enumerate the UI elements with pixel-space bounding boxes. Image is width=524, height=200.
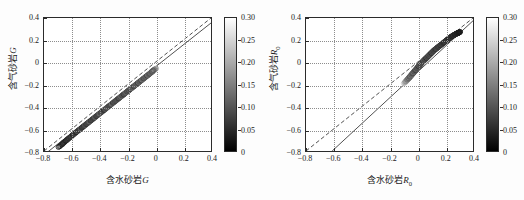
- x-tickmark: [100, 148, 101, 151]
- y-tickmark: [306, 131, 309, 132]
- x-tickmark: [419, 148, 420, 151]
- y-tickmark: [306, 86, 309, 87]
- gridline-horizontal: [44, 86, 211, 87]
- gridline-horizontal: [306, 131, 473, 132]
- x-tick-label: 0.2: [179, 154, 189, 163]
- gridline-horizontal: [44, 63, 211, 64]
- x-tickmark: [185, 148, 186, 151]
- colorbar-tick-label: 0.10: [241, 103, 255, 112]
- x-tickmark: [129, 148, 130, 151]
- y-tick-label: 0: [35, 58, 39, 67]
- colorbar-tick-label: 0.25: [503, 35, 517, 44]
- panel-left-G: −0.8−0.6−0.4−0.200.20.4 −0.8−0.6−0.4−0.2…: [0, 0, 262, 200]
- colorbar-tickmark: [238, 130, 241, 131]
- colorbar-tickmark: [238, 40, 241, 41]
- x-tickmark: [157, 148, 158, 151]
- colorbar-tickmark: [500, 85, 503, 86]
- x-axis-label-right-text: 含水砂岩: [367, 175, 403, 185]
- y-tick-label: −0.2: [286, 80, 301, 89]
- colorbar-tickmark: [238, 62, 241, 63]
- colorbar-tick-label: 0.20: [241, 58, 255, 67]
- colorbar-left: [224, 17, 237, 152]
- x-axis-label-left-text: 含水砂岩: [106, 175, 142, 185]
- x-tick-label: 0.4: [469, 154, 479, 163]
- y-tick-label: 0.2: [291, 35, 301, 44]
- x-tickmark: [391, 148, 392, 151]
- x-tickmark: [334, 148, 335, 151]
- y-axis-label-right-symbol: R: [269, 50, 279, 56]
- gridline-horizontal: [306, 63, 473, 64]
- x-tick-label: −0.6: [64, 154, 79, 163]
- y-tickmark: [306, 41, 309, 42]
- colorbar-tick-label: 0.30: [503, 13, 517, 22]
- gridline-horizontal: [306, 86, 473, 87]
- colorbar-tick-label: 0: [241, 148, 245, 157]
- y-axis-label-right: 含气砂岩R0: [267, 24, 281, 114]
- colorbar-tick-labels-right: 00.050.100.150.200.250.30: [500, 17, 524, 152]
- y-tick-label: −0.8: [24, 148, 39, 157]
- y-tickmark: [44, 108, 47, 109]
- gridline-horizontal: [44, 131, 211, 132]
- colorbar-tick-label: 0: [503, 148, 507, 157]
- x-tickmark: [306, 148, 307, 151]
- y-axis-label-left: 含气砂岩G: [6, 24, 19, 114]
- y-tickmark: [306, 18, 309, 19]
- colorbar-tickmark: [238, 107, 241, 108]
- colorbar-tickmark: [238, 85, 241, 86]
- x-tick-label: 0.2: [441, 154, 451, 163]
- axes-right: [305, 17, 474, 152]
- y-tickmark: [44, 131, 47, 132]
- colorbar-tick-label: 0.20: [503, 58, 517, 67]
- y-axis-label-right-subscript: 0: [274, 47, 281, 50]
- gridline-horizontal: [44, 108, 211, 109]
- gridline-horizontal: [306, 108, 473, 109]
- x-tick-label: −0.4: [354, 154, 369, 163]
- y-tick-label: −0.6: [24, 125, 39, 134]
- x-tick-label: 0: [416, 154, 420, 163]
- y-tickmark: [44, 41, 47, 42]
- y-tickmark: [44, 63, 47, 64]
- figure-two-panel-crossplots: −0.8−0.6−0.4−0.200.20.4 −0.8−0.6−0.4−0.2…: [0, 0, 524, 200]
- y-tick-label: −0.4: [24, 103, 39, 112]
- colorbar-tick-label: 0.10: [503, 103, 517, 112]
- y-axis-label-left-text: 含气砂岩: [8, 54, 18, 90]
- colorbar-tick-label: 0.25: [241, 35, 255, 44]
- colorbar-tick-label: 0.30: [241, 13, 255, 22]
- x-tick-label: −0.2: [382, 154, 397, 163]
- gridline-horizontal: [306, 41, 473, 42]
- colorbar-tick-label: 0.15: [241, 80, 255, 89]
- colorbar-tick-label: 0.15: [503, 80, 517, 89]
- x-axis-label-right-subscript: 0: [409, 180, 412, 187]
- x-tick-label: −0.4: [92, 154, 107, 163]
- y-tick-label: 0.4: [291, 13, 301, 22]
- x-tickmark: [72, 148, 73, 151]
- y-tick-label: −0.2: [24, 80, 39, 89]
- x-axis-label-right: 含水砂岩R0: [305, 173, 474, 187]
- panel-right-R0: −0.8−0.6−0.4−0.200.20.4 −0.8−0.6−0.4−0.2…: [262, 0, 524, 200]
- colorbar-tick-labels-left: 00.050.100.150.200.250.30: [238, 17, 264, 152]
- y-tick-label: 0.4: [29, 13, 39, 22]
- y-axis-label-right-text: 含气砂岩: [269, 55, 279, 91]
- y-tick-label: −0.8: [286, 148, 301, 157]
- x-tickmark: [362, 148, 363, 151]
- y-tick-label: −0.6: [286, 125, 301, 134]
- y-tickmark: [44, 18, 47, 19]
- colorbar-tickmark: [500, 62, 503, 63]
- colorbar-tickmark: [500, 130, 503, 131]
- colorbar-tickmark: [500, 107, 503, 108]
- gridline-horizontal: [44, 41, 211, 42]
- x-tick-label: 0: [154, 154, 158, 163]
- colorbar-tick-label: 0.05: [503, 125, 517, 134]
- y-tickmark: [306, 63, 309, 64]
- colorbar-tickmark: [500, 40, 503, 41]
- y-tick-label: 0: [297, 58, 301, 67]
- x-tick-label: −0.6: [326, 154, 341, 163]
- axes-left: [43, 17, 212, 152]
- y-tick-label: −0.4: [286, 103, 301, 112]
- x-tick-label: 0.4: [207, 154, 217, 163]
- x-tick-label: −0.2: [120, 154, 135, 163]
- y-tickmark: [306, 108, 309, 109]
- x-tickmark: [44, 148, 45, 151]
- x-axis-label-left: 含水砂岩G: [43, 173, 212, 186]
- x-axis-label-left-symbol: G: [142, 175, 149, 185]
